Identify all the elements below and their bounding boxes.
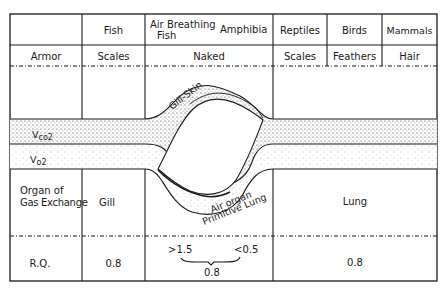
organ-label-line1: Organ of bbox=[20, 185, 63, 196]
header-reptiles: Reptiles bbox=[273, 25, 327, 36]
rq-transition-low: <0.5 bbox=[234, 244, 258, 255]
rq-label: R.Q. bbox=[10, 258, 70, 269]
vo2-label: Vo2 bbox=[30, 154, 46, 166]
header-mammals: Mammals bbox=[382, 25, 437, 36]
vco2-subscript: co2 bbox=[39, 133, 53, 142]
rq-fish: 0.8 bbox=[82, 258, 145, 269]
rq-lung: 0.8 bbox=[273, 257, 437, 268]
header-amphibia: Amphibia bbox=[220, 24, 267, 35]
vo2-subscript: o2 bbox=[37, 158, 47, 167]
header-fish: Fish bbox=[82, 25, 145, 36]
vo2-symbol: V bbox=[30, 154, 37, 165]
armor-air-breathing-amphibia: Naked bbox=[145, 51, 273, 62]
rq-transition-high: >1.5 bbox=[168, 244, 192, 255]
header-air-breathing-fish-line1: Air Breathing bbox=[150, 19, 216, 30]
vco2-symbol: V bbox=[32, 129, 39, 140]
armor-mammals: Hair bbox=[382, 51, 437, 62]
vco2-label: Vco2 bbox=[32, 129, 53, 141]
armor-fish: Scales bbox=[82, 51, 145, 62]
gas-exchange-evolution-diagram: Gill-Skin Air organ Primitive Lung bbox=[0, 0, 446, 293]
armor-label: Armor bbox=[10, 51, 82, 62]
armor-reptiles: Scales bbox=[273, 51, 327, 62]
header-birds: Birds bbox=[327, 25, 382, 36]
header-air-breathing-fish-line2: Fish bbox=[157, 30, 176, 41]
armor-birds: Feathers bbox=[327, 51, 382, 62]
rq-transition-mean: 0.8 bbox=[204, 267, 220, 278]
organ-fish: Gill bbox=[82, 197, 132, 208]
organ-label-line2: Gas Exchange bbox=[20, 197, 88, 208]
rq-brace bbox=[181, 257, 240, 265]
organ-lung: Lung bbox=[273, 196, 437, 207]
